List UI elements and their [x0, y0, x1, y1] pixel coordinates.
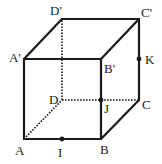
edge-B'C': [101, 19, 139, 59]
label-B-prime: B': [104, 61, 115, 76]
label-I: I: [58, 145, 62, 160]
label-C: C: [142, 97, 151, 112]
label-D: D: [49, 92, 58, 107]
point-I: [60, 137, 65, 142]
label-K: K: [145, 52, 155, 67]
label-A: A: [15, 143, 25, 158]
point-K: [137, 57, 142, 62]
label-C-prime: C': [141, 5, 152, 20]
point-J: [99, 98, 104, 103]
label-J: J: [104, 101, 109, 116]
label-D-prime: D': [50, 3, 62, 18]
edge-D'A': [24, 19, 62, 59]
label-B: B: [100, 142, 109, 157]
label-A-prime: A': [9, 50, 21, 65]
cube-diagram: D' C' A' B' K D C J A I B: [0, 0, 162, 164]
